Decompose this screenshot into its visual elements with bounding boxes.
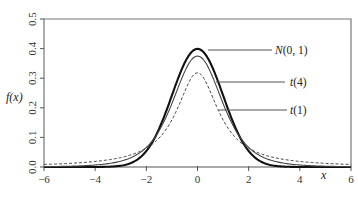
x-tick-label: 4: [297, 173, 303, 185]
plot-frame: [44, 19, 351, 167]
x-tick-label: 2: [246, 173, 252, 185]
y-tick-label: 0.1: [26, 131, 38, 145]
x-tick-label: −4: [89, 173, 101, 185]
y-axis-title: f(x): [6, 90, 23, 104]
curve-annotations: N(0, 1)t(4)t(1): [208, 44, 308, 117]
y-tick-label: 0.4: [26, 41, 38, 55]
y-tick-label: 0.0: [26, 160, 38, 174]
x-axis-title: x: [320, 168, 327, 182]
x-tick-label: 6: [348, 173, 354, 185]
x-axis: −6−4−20246: [38, 166, 354, 185]
y-tick-label: 0.2: [26, 101, 38, 115]
density-chart: 0.00.10.20.30.40.5 −6−4−20246 N(0, 1)t(4…: [0, 0, 358, 201]
y-tick-label: 0.5: [26, 12, 38, 26]
y-tick-label: 0.3: [26, 71, 38, 85]
curve-label: t(4): [290, 76, 307, 89]
curve-label: N(0, 1): [274, 44, 308, 57]
x-tick-label: 0: [195, 173, 201, 185]
x-tick-label: −2: [140, 173, 152, 185]
x-tick-label: −6: [38, 173, 50, 185]
frame-border: [44, 19, 351, 167]
y-axis: 0.00.10.20.30.40.5: [26, 12, 44, 174]
curve-label: t(1): [290, 104, 307, 117]
